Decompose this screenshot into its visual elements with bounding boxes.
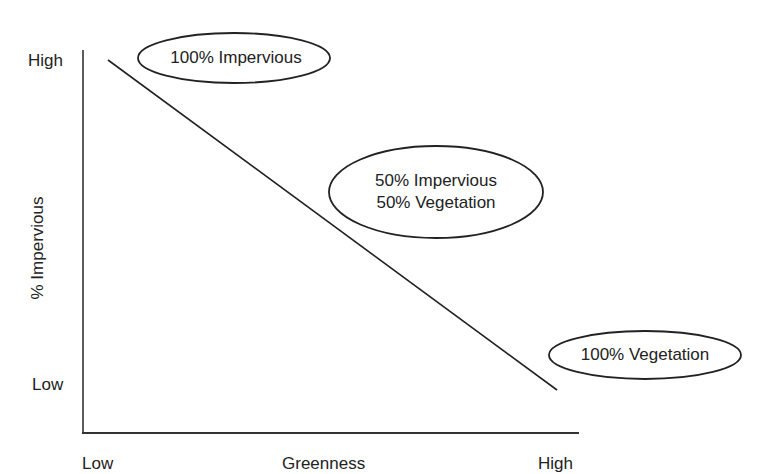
annotation-50-vegetation: 50% Vegetation <box>375 192 497 214</box>
y-axis-label: % Impervious <box>28 197 48 300</box>
x-tick-high: High <box>538 454 573 474</box>
trend-line <box>108 60 557 390</box>
x-axis-label: Greenness <box>282 454 365 474</box>
annotation-100-vegetation: 100% Vegetation <box>581 344 710 366</box>
x-tick-low: Low <box>82 454 113 474</box>
annotation-100-impervious: 100% Impervious <box>170 47 301 69</box>
annotation-50-50: 50% Impervious 50% Vegetation <box>375 170 497 214</box>
y-tick-high: High <box>28 51 63 71</box>
y-tick-low: Low <box>32 375 63 395</box>
annotation-50-impervious: 50% Impervious <box>375 170 497 192</box>
